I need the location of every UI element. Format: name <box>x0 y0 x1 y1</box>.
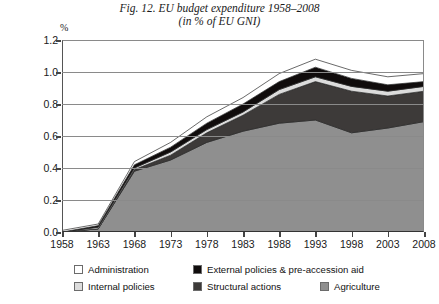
x-tick-mark <box>207 232 209 237</box>
x-tick-mark <box>388 232 390 237</box>
y-tick-label: 0.0 <box>6 226 58 238</box>
x-tick-mark <box>134 232 136 237</box>
x-tick-label: 1988 <box>259 238 299 250</box>
y-tick-label: 0.2 <box>6 194 58 206</box>
x-tick-label: 1968 <box>114 238 154 250</box>
legend-label-administration: Administration <box>88 264 149 275</box>
gridline <box>62 200 424 201</box>
y-tick-mark <box>56 136 61 138</box>
y-tick-label: 1.2 <box>6 34 58 46</box>
y-tick-mark <box>56 168 61 170</box>
legend-item-structural-actions[interactable]: Structural actions <box>193 277 281 295</box>
x-tick-mark <box>352 232 354 237</box>
y-tick-mark <box>56 72 61 74</box>
y-tick-mark <box>56 200 61 202</box>
gridline <box>62 104 424 105</box>
legend-row-1: Administration External policies & pre-a… <box>62 260 430 278</box>
x-tick-label: 1998 <box>332 238 372 250</box>
y-tick-label: 1.0 <box>6 66 58 78</box>
legend-row-2: Internal policies Structural actions Agr… <box>62 277 430 295</box>
figure-title-line1: Fig. 12. EU budget expenditure 1958–2008 <box>120 2 320 14</box>
x-tick-mark <box>279 232 281 237</box>
chart-plot-area <box>62 40 424 232</box>
y-axis-ticks: 1.21.00.80.60.40.20.0 <box>0 40 58 232</box>
chart-legend: Administration External policies & pre-a… <box>62 260 430 302</box>
y-tick-mark <box>56 104 61 106</box>
x-tick-mark <box>243 232 245 237</box>
x-tick-label: 1973 <box>151 238 191 250</box>
y-axis-unit-label: % <box>60 22 68 33</box>
x-tick-mark <box>62 232 64 237</box>
x-tick-label: 1983 <box>223 238 263 250</box>
legend-swatch-agriculture <box>320 282 329 291</box>
x-tick-mark <box>98 232 100 237</box>
y-tick-label: 0.4 <box>6 162 58 174</box>
legend-swatch-structural-actions <box>193 282 202 291</box>
x-tick-label: 2008 <box>404 238 439 250</box>
x-axis-ticks: 1958196319681973197819831988199319982003… <box>62 232 424 254</box>
x-tick-label: 1978 <box>187 238 227 250</box>
gridline <box>62 72 424 73</box>
x-tick-mark <box>171 232 173 237</box>
legend-swatch-external-policies <box>193 265 202 274</box>
x-tick-mark <box>424 232 426 237</box>
legend-label-structural-actions: Structural actions <box>207 281 281 292</box>
legend-item-administration[interactable]: Administration <box>74 260 149 278</box>
legend-label-external-policies: External policies & pre-accession aid <box>207 264 364 275</box>
y-tick-label: 0.6 <box>6 130 58 142</box>
legend-label-internal-policies: Internal policies <box>88 281 155 292</box>
legend-item-internal-policies[interactable]: Internal policies <box>74 277 155 295</box>
gridline <box>62 136 424 137</box>
legend-swatch-administration <box>74 265 83 274</box>
x-tick-label: 2003 <box>368 238 408 250</box>
x-tick-mark <box>315 232 317 237</box>
x-tick-label: 1993 <box>295 238 335 250</box>
legend-item-external-policies[interactable]: External policies & pre-accession aid <box>193 260 364 278</box>
gridline <box>62 168 424 169</box>
legend-label-agriculture: Agriculture <box>334 281 380 292</box>
x-tick-label: 1958 <box>42 238 82 250</box>
y-tick-mark <box>56 232 61 234</box>
legend-swatch-internal-policies <box>74 282 83 291</box>
y-tick-mark <box>56 40 61 42</box>
x-tick-label: 1963 <box>78 238 118 250</box>
y-tick-label: 0.8 <box>6 98 58 110</box>
legend-item-agriculture[interactable]: Agriculture <box>320 277 380 295</box>
